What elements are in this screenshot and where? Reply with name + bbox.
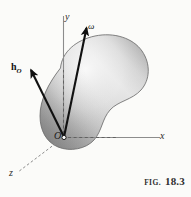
caption-number: 18.3 [165,175,185,187]
origin-label: O [54,131,61,141]
figure-18-3: y x z O ω hO FIG. 18.3 [0,0,191,197]
caption-prefix: FIG. [144,178,161,187]
z-axis-label: z [9,168,13,178]
figure-caption: FIG. 18.3 [144,175,185,187]
angular-momentum-label: hO [11,62,22,75]
x-axis-label: x [160,131,164,141]
angular-velocity-label: ω [88,22,94,31]
origin-marker [62,135,66,139]
y-axis-label: y [65,12,69,22]
figure-canvas [0,0,191,197]
angular-momentum-label-subscript: O [17,67,22,75]
